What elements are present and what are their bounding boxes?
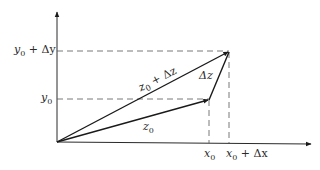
label-x0-plus-dx: x0 + Δx — [226, 148, 268, 162]
axes — [57, 12, 311, 144]
vector-z0 — [57, 100, 208, 142]
label-x0: x0 — [204, 148, 215, 162]
label-z0: z0 — [143, 121, 154, 135]
label-y0-plus-dy: y0 + Δy — [14, 44, 56, 58]
label-y0: y0 — [41, 92, 52, 106]
x-axis — [57, 142, 311, 144]
label-dz: Δz — [199, 70, 213, 81]
